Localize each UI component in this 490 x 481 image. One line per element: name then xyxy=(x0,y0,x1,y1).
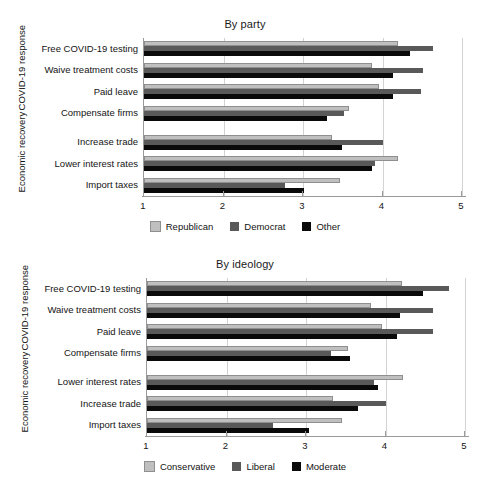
legend-label: Moderate xyxy=(306,461,346,472)
bar xyxy=(144,166,372,171)
section-label-text: COVID-19 response xyxy=(17,42,28,110)
legend-label: Democrat xyxy=(244,221,285,232)
bar xyxy=(147,334,397,339)
legend-item[interactable]: Other xyxy=(302,221,340,232)
category-label: Increase trade xyxy=(80,399,141,409)
legend-swatch-icon xyxy=(232,462,241,471)
x-axis-tick-label: 4 xyxy=(379,200,384,211)
gridline xyxy=(465,278,466,436)
section-label-text: Economic recovery xyxy=(20,360,31,432)
x-axis-tick-label: 5 xyxy=(461,440,466,451)
bar xyxy=(147,428,309,433)
bar xyxy=(147,313,400,318)
category-label: Paid leave xyxy=(97,327,141,337)
legend-swatch-icon xyxy=(292,462,301,471)
x-axis-tick-label: 2 xyxy=(223,440,228,451)
x-axis-tick-label: 3 xyxy=(299,200,304,211)
legend-item[interactable]: Conservative xyxy=(144,461,215,472)
bar xyxy=(144,51,410,56)
category-label: Compensate firms xyxy=(64,348,141,358)
category-label: Paid leave xyxy=(94,87,138,97)
x-axis-tick xyxy=(464,431,465,436)
gridline xyxy=(383,38,384,196)
section-label-text: COVID-19 response xyxy=(20,282,31,350)
chart-title: By party xyxy=(0,18,490,30)
bar xyxy=(144,116,327,121)
x-axis-tick xyxy=(461,191,462,196)
x-axis-tick-label: 4 xyxy=(382,440,387,451)
bar xyxy=(147,291,423,296)
x-axis-tick xyxy=(143,191,144,196)
category-label: Waive treatment costs xyxy=(47,305,141,315)
legend: RepublicanDemocratOther xyxy=(0,221,490,232)
x-axis-tick-label: 2 xyxy=(220,200,225,211)
x-axis-tick xyxy=(385,431,386,436)
legend-label: Liberal xyxy=(246,461,275,472)
x-axis-tick-label: 3 xyxy=(302,440,307,451)
legend-swatch-icon xyxy=(144,461,155,472)
section-label: COVID-19 response xyxy=(0,42,52,110)
bar xyxy=(144,188,304,193)
bar xyxy=(147,385,378,390)
legend-swatch-icon xyxy=(230,222,239,231)
x-axis-line xyxy=(145,436,469,437)
category-label: Import taxes xyxy=(86,180,138,190)
gridline xyxy=(386,278,387,436)
section-label: Economic recovery xyxy=(0,120,52,192)
x-axis-tick-label: 1 xyxy=(140,200,145,211)
bar xyxy=(144,73,393,78)
x-axis-tick xyxy=(305,431,306,436)
chart-title: By ideology xyxy=(0,258,490,270)
category-label: Free COVID-19 testing xyxy=(41,44,138,54)
bar xyxy=(147,356,350,361)
legend-swatch-icon xyxy=(150,221,161,232)
plot-area xyxy=(146,278,465,436)
plot-area xyxy=(143,38,462,196)
legend-label: Conservative xyxy=(160,461,215,472)
legend-label: Other xyxy=(316,221,340,232)
x-axis-tick xyxy=(302,191,303,196)
bar xyxy=(144,94,393,99)
gridline xyxy=(462,38,463,196)
category-label: Lower interest rates xyxy=(58,377,141,387)
bar xyxy=(147,406,358,411)
legend-label: Republican xyxy=(166,221,214,232)
legend-item[interactable]: Moderate xyxy=(292,461,346,472)
category-label: Waive treatment costs xyxy=(44,65,138,75)
x-axis-tick xyxy=(223,191,224,196)
legend-item[interactable]: Republican xyxy=(150,221,214,232)
category-label: Lower interest rates xyxy=(55,159,138,169)
legend: ConservativeLiberalModerate xyxy=(0,461,490,472)
bar xyxy=(144,145,342,150)
category-label: Free COVID-19 testing xyxy=(44,284,141,294)
category-label: Increase trade xyxy=(77,137,138,147)
legend-item[interactable]: Liberal xyxy=(232,461,275,472)
chart-panel-by-party: By partyFree COVID-19 testingWaive treat… xyxy=(0,0,490,240)
section-label: COVID-19 response xyxy=(0,282,55,350)
legend-item[interactable]: Democrat xyxy=(230,221,285,232)
x-axis-tick xyxy=(226,431,227,436)
category-label: Import taxes xyxy=(89,420,141,430)
x-axis-tick-label: 1 xyxy=(143,440,148,451)
section-label: Economic recovery xyxy=(0,360,55,432)
section-label-text: Economic recovery xyxy=(17,120,28,192)
legend-swatch-icon xyxy=(302,222,311,231)
category-label: Compensate firms xyxy=(61,108,138,118)
x-axis-tick-label: 5 xyxy=(458,200,463,211)
x-axis-tick xyxy=(146,431,147,436)
x-axis-tick xyxy=(382,191,383,196)
x-axis-line xyxy=(142,196,466,197)
chart-panel-by-ideology: By ideologyFree COVID-19 testingWaive tr… xyxy=(0,240,490,481)
